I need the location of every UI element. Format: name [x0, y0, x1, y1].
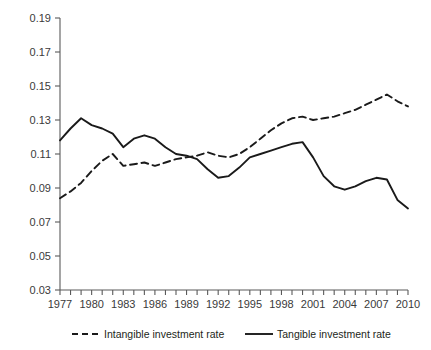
- chart-figure: 0.190.170.150.130.110.090.070.050.03 197…: [0, 0, 431, 350]
- x-tick-label: 1995: [238, 298, 262, 310]
- series-lines: [60, 95, 408, 209]
- x-tick-label: 1983: [111, 298, 135, 310]
- series-line-intangible: [60, 95, 408, 199]
- x-tick-label: 2010: [396, 298, 420, 310]
- y-tick-label: 0.07: [30, 216, 51, 228]
- y-tick-label: 0.15: [30, 80, 51, 92]
- x-tick-label: 1992: [206, 298, 230, 310]
- x-tick-label: 1998: [269, 298, 293, 310]
- x-tick-label: 2001: [301, 298, 325, 310]
- series-line-tangible: [60, 118, 408, 208]
- x-tick-label: 2007: [364, 298, 388, 310]
- x-tick-label: 1977: [48, 298, 72, 310]
- line-chart: 0.190.170.150.130.110.090.070.050.03 197…: [0, 0, 431, 350]
- y-tick-label: 0.19: [30, 12, 51, 24]
- chart-legend: Intangible investment rateTangible inves…: [72, 328, 391, 340]
- y-axis-ticks: 0.190.170.150.130.110.090.070.050.03: [30, 12, 60, 296]
- x-axis-ticks: 1977198019831986198919921995199820012004…: [48, 290, 420, 310]
- y-tick-label: 0.03: [30, 284, 51, 296]
- y-tick-label: 0.17: [30, 46, 51, 58]
- y-tick-label: 0.09: [30, 182, 51, 194]
- x-tick-label: 1986: [143, 298, 167, 310]
- legend-label-tangible: Tangible investment rate: [277, 328, 391, 340]
- x-tick-label: 2004: [332, 298, 356, 310]
- y-tick-label: 0.05: [30, 250, 51, 262]
- x-tick-label: 1989: [174, 298, 198, 310]
- x-tick-label: 1980: [79, 298, 103, 310]
- legend-label-intangible: Intangible investment rate: [104, 328, 224, 340]
- y-tick-label: 0.13: [30, 114, 51, 126]
- y-tick-label: 0.11: [30, 148, 51, 160]
